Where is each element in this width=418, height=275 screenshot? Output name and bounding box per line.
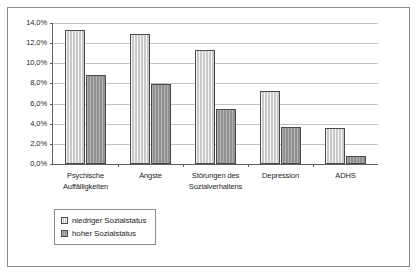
figure-frame: 14,0%12,0%10,0%8,0%6,0%4,0%2,0%0,0% Psyc…: [7, 7, 410, 267]
y-tick-label: 0,0%: [7, 160, 47, 168]
x-axis-line: [52, 164, 378, 165]
gridline: [53, 23, 378, 24]
legend-swatch-high-icon: [61, 230, 68, 237]
plot-area: 14,0%12,0%10,0%8,0%6,0%4,0%2,0%0,0% Psyc…: [53, 23, 378, 164]
x-tick-mark: [118, 164, 119, 167]
x-category-label: Störungen desSozialverhaltens: [183, 171, 248, 192]
legend-item-niedriger-sozialstatus: niedriger Sozialstatus: [61, 214, 146, 227]
bar: [86, 75, 106, 164]
x-tick-mark: [183, 164, 184, 167]
bar: [346, 156, 366, 164]
x-category-label: ADHS: [313, 171, 378, 182]
y-tick-label: 14,0%: [7, 19, 47, 27]
legend-swatch-low-icon: [61, 217, 68, 224]
bar: [260, 91, 280, 164]
y-tick-label: 2,0%: [7, 140, 47, 148]
x-tick-mark: [248, 164, 249, 167]
bar: [281, 127, 301, 164]
x-category-label: Ängste: [118, 171, 183, 182]
gridline: [53, 63, 378, 64]
chart-legend: niedriger Sozialstatus hoher Sozialstatu…: [54, 209, 156, 245]
x-category-label: Depression: [248, 171, 313, 182]
bar: [195, 50, 215, 164]
x-tick-mark: [313, 164, 314, 167]
gridline: [53, 43, 378, 44]
legend-label-low: niedriger Sozialstatus: [72, 216, 146, 225]
bar: [325, 128, 345, 164]
y-axis-line: [52, 23, 53, 164]
bar: [65, 30, 85, 164]
bar: [216, 109, 236, 164]
legend-label-high: hoher Sozialstatus: [72, 229, 136, 238]
y-tick-label: 12,0%: [7, 39, 47, 47]
legend-item-hoher-sozialstatus: hoher Sozialstatus: [61, 227, 146, 240]
x-category-label: PsychischeAuffälligkeiten: [53, 171, 118, 192]
y-tick-label: 8,0%: [7, 79, 47, 87]
y-tick-label: 6,0%: [7, 100, 47, 108]
bar: [130, 34, 150, 164]
bar: [151, 84, 171, 164]
y-tick-label: 4,0%: [7, 120, 47, 128]
y-tick-label: 10,0%: [7, 59, 47, 67]
